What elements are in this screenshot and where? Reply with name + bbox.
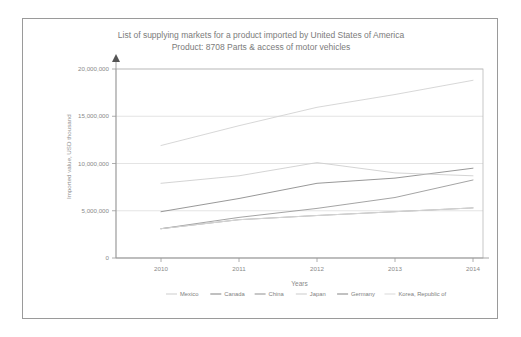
y-tick-label: 10,000,000: [78, 160, 110, 167]
legend-label-4: Germany: [351, 291, 375, 297]
x-tick-label: 2013: [388, 265, 402, 272]
series-line-canada: [161, 168, 473, 212]
legend-label-2: China: [269, 291, 285, 297]
chart-legend: MexicoCanadaChinaJapanGermanyKorea, Repu…: [166, 291, 447, 297]
x-axis-title: Years: [291, 280, 308, 287]
series-lines: [161, 80, 473, 228]
series-line-japan: [161, 163, 473, 184]
x-tick-label: 2011: [232, 265, 246, 272]
line-chart-svg: 05,000,00010,000,00015,000,00020,000,000…: [23, 19, 499, 320]
y-tick-label: 0: [106, 254, 110, 261]
gridlines-group: [116, 69, 483, 258]
chart-plot-area: 05,000,00010,000,00015,000,00020,000,000…: [23, 19, 499, 320]
y-tick-label: 20,000,000: [78, 65, 110, 72]
x-tick-label: 2010: [154, 265, 168, 272]
y-axis-arrow: [112, 54, 120, 62]
y-axis-title: Imported value, USD thousand: [65, 114, 72, 199]
y-tick-label: 5,000,000: [81, 207, 109, 214]
chart-frame: List of supplying markets for a product …: [22, 18, 498, 319]
legend-label-1: Canada: [224, 291, 245, 297]
x-axis-ticks: 20102011201220132014: [154, 258, 480, 272]
y-axis-ticks: 05,000,00010,000,00015,000,00020,000,000: [78, 65, 116, 261]
series-line-mexico: [161, 80, 473, 145]
y-tick-label: 15,000,000: [78, 112, 110, 119]
legend-label-0: Mexico: [180, 291, 198, 297]
x-tick-label: 2014: [466, 265, 480, 272]
legend-label-5: Korea, Republic of: [398, 291, 446, 297]
x-tick-label: 2012: [310, 265, 324, 272]
legend-label-3: Japan: [310, 291, 326, 297]
series-line-china: [161, 180, 473, 229]
